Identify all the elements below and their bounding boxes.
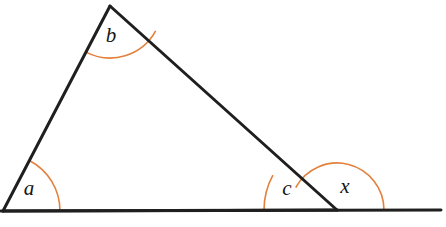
triangle-lines-layer: [1, 6, 441, 211]
side-base: [3, 210, 337, 211]
geometry-canvas: abcx: [0, 0, 446, 227]
angle-label-c: c: [282, 176, 292, 200]
angle-labels-layer: abcx: [24, 23, 351, 200]
geometry-diagram: abcx: [0, 0, 446, 227]
angle-label-b: b: [106, 23, 117, 47]
side-left: [3, 6, 110, 211]
angle-c-arc: [264, 175, 273, 210]
side-hypotenuse: [110, 6, 337, 210]
angle-label-a: a: [24, 176, 35, 200]
angle-label-x: x: [339, 174, 350, 198]
